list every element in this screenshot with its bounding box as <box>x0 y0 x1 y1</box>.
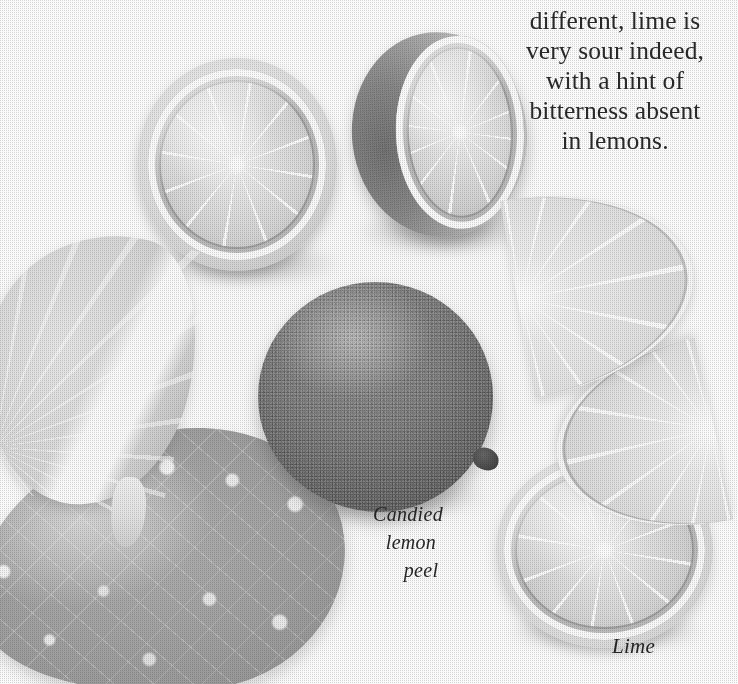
scanned-page: p different, lime is very sour indeed, w… <box>0 0 738 684</box>
caption-candied-lemon-peel: Candied lemon peel <box>352 500 464 584</box>
body-copy: p different, lime is very sour indeed, w… <box>492 0 738 156</box>
caption-lime-line-1: Lime <box>612 634 655 658</box>
body-copy-line-1: different, lime is <box>492 6 738 36</box>
lemon-wedge <box>0 225 199 510</box>
body-copy-line-4: bitterness absent <box>492 96 738 126</box>
caption-candied-line-2: lemon <box>352 528 464 556</box>
lime-slice-upper-flesh <box>500 170 710 398</box>
lime-slice-upper <box>500 170 710 398</box>
lemon-wedge-veins <box>0 210 220 524</box>
body-copy-line-5: in lemons. <box>492 126 738 156</box>
body-copy-line-3: with a hint of <box>492 66 738 96</box>
caption-lime: Lime <box>612 634 655 658</box>
caption-candied-line-1: Candied <box>352 500 464 528</box>
caption-candied-line-3: peel <box>352 556 464 584</box>
whole-lime <box>258 282 493 512</box>
body-copy-line-2: very sour indeed, <box>492 36 738 66</box>
whole-lime-rind <box>258 282 493 512</box>
